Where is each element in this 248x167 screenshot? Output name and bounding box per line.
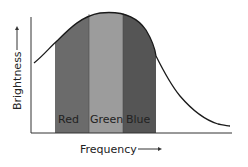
band-label-blue: Blue (126, 113, 151, 126)
x-axis-arrow-icon (138, 147, 162, 151)
band-label-red: Red (58, 113, 79, 126)
band-label-green: Green (90, 113, 123, 126)
brightness-frequency-diagram: Red Green Blue Frequency Brightness (0, 0, 248, 167)
y-axis-arrow-icon (15, 26, 19, 50)
y-axis-label: Brightness (11, 51, 24, 110)
x-axis-label: Frequency (80, 143, 137, 156)
